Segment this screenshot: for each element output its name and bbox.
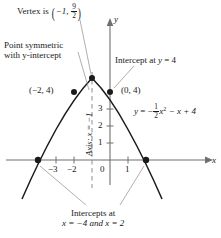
equation-fraction: 12 xyxy=(153,103,159,119)
point-root-right xyxy=(143,157,149,163)
y-intercept-pre: Intercept at xyxy=(115,55,156,65)
vertex-annotation: Vertex is (−1, 92) xyxy=(17,3,82,19)
vertex-y-numerator: 9 xyxy=(71,3,77,11)
equation-equals: = xyxy=(140,106,145,116)
xtick-label-0: 0 xyxy=(100,164,105,174)
y-axis-label: y xyxy=(114,14,118,24)
vertex-paren-close: ) xyxy=(78,9,81,19)
vertex-x: −1 xyxy=(56,6,67,16)
equation-numerator: 1 xyxy=(153,103,159,111)
equation-rest: − x + 4 xyxy=(169,106,196,116)
point-vertex xyxy=(89,75,95,81)
xtick-label-minus2: −2 xyxy=(67,164,77,174)
equation-label: y = −12x2 − x + 4 xyxy=(134,103,196,119)
ytick-label-1: 1 xyxy=(98,137,103,147)
y-intercept-eq: = 4 xyxy=(164,55,176,65)
vertex-paren-open: ( xyxy=(52,9,55,19)
ytick-label-3: 3 xyxy=(98,103,103,113)
vertex-prefix: Vertex is xyxy=(17,6,49,16)
ytick-label-2: 2 xyxy=(98,120,103,130)
point-label-minus2-4: (−2, 4) xyxy=(29,85,54,95)
point-symmetric xyxy=(71,89,77,95)
x-intercepts-line-1: Intercepts at xyxy=(71,208,115,218)
equation-lhs: y xyxy=(134,106,138,116)
xtick-label-minus3: −3 xyxy=(48,164,58,174)
x-intercepts-line-2: x = −4 and x = 2 xyxy=(62,218,124,228)
y-intercept-var: y xyxy=(158,55,162,65)
equation-x-exponent: 2 xyxy=(163,106,166,112)
symmetric-point-annotation: Point symmetric with y-intercept xyxy=(4,40,63,60)
symmetric-line-1: Point symmetric xyxy=(4,40,63,50)
equation-denominator: 2 xyxy=(153,111,159,120)
point-y-intercept xyxy=(107,89,113,95)
point-label-0-4: (0, 4) xyxy=(121,85,141,95)
axis-of-symmetry-label: Axis: x = −1 xyxy=(84,113,94,156)
vertex-y-denominator: 2 xyxy=(71,11,77,20)
vertex-y-fraction: 92 xyxy=(71,3,77,19)
x-intercepts-annotation: Intercepts at x = −4 and x = 2 xyxy=(62,208,124,228)
x-axis-label: x xyxy=(212,155,216,165)
equation-sign: − xyxy=(148,106,153,116)
point-root-left xyxy=(35,157,41,163)
y-intercept-annotation: Intercept at y = 4 xyxy=(115,55,176,65)
xtick-label-1: 1 xyxy=(125,164,130,174)
symmetric-line-2: with y-intercept xyxy=(4,50,61,60)
